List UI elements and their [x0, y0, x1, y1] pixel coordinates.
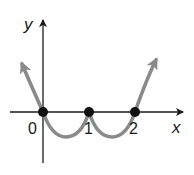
- tick-label-0: 0: [28, 120, 37, 137]
- graph-figure: y x 0 1 2: [0, 0, 194, 175]
- root-point-2: [130, 107, 140, 117]
- tick-label-2: 2: [129, 120, 138, 137]
- root-point-1: [84, 107, 94, 117]
- x-axis-label: x: [171, 118, 181, 137]
- y-axis-label: y: [23, 15, 34, 34]
- function-curve: [22, 64, 43, 112]
- graph-canvas: y x 0 1 2: [0, 0, 194, 175]
- function-curve-right: [135, 60, 156, 112]
- root-point-0: [38, 107, 48, 117]
- tick-label-1: 1: [84, 120, 93, 137]
